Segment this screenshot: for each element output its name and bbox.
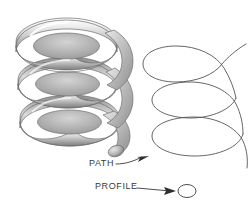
profile-label: PROFILE	[95, 182, 138, 191]
annotation-layer	[0, 0, 250, 207]
profile-ellipse	[178, 185, 196, 198]
path-label: PATH	[89, 159, 114, 168]
path-leader-line	[116, 157, 142, 164]
helical-sweep-figure: PATH PROFILE	[0, 0, 250, 207]
